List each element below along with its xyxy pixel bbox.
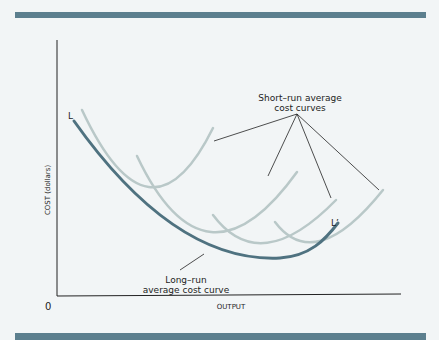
leader-line-srac2 — [268, 114, 297, 176]
long-run-label-line1: Long–run — [165, 275, 206, 285]
y-axis-label: COST (dollars) — [44, 165, 52, 216]
lac-end-label: L’ — [331, 218, 339, 228]
bottom-frame-bar — [15, 333, 426, 340]
leader-line-srac1 — [214, 114, 297, 141]
x-axis-label: OUTPUT — [217, 303, 246, 311]
lac-start-label: L — [68, 111, 73, 121]
leader-line-lac — [180, 254, 204, 270]
leader-line-srac4 — [297, 114, 379, 190]
short-run-label-line1: Short–run average — [258, 93, 342, 103]
long-run-label-line2: average cost curve — [143, 285, 230, 295]
cost-curves-chart: Short–run average cost curves Long–run a… — [0, 0, 439, 340]
leader-line-srac3 — [297, 114, 331, 198]
origin-label: 0 — [45, 301, 51, 312]
short-run-label-line2: cost curves — [274, 103, 326, 113]
